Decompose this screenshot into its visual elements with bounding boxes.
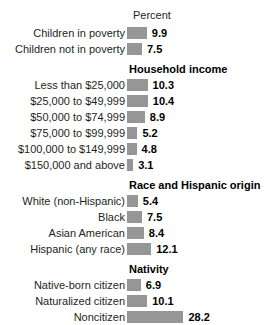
bar-category-label: Hispanic (any race): [0, 243, 127, 256]
bar-wrapper: 28.2: [127, 311, 268, 323]
bar-wrapper: 6.9: [127, 279, 268, 291]
bar-wrapper: 7.5: [127, 211, 268, 223]
bar-wrapper: 7.5: [127, 43, 268, 55]
bar-wrapper: 8.4: [127, 227, 268, 239]
bar-row: Children not in poverty7.5: [0, 41, 268, 57]
bar: [127, 243, 151, 255]
chart-section: Children in poverty9.9Children not in po…: [0, 25, 268, 57]
bar-wrapper: 10.1: [127, 295, 268, 307]
bar: [127, 311, 183, 323]
bar-category-label: $100,000 to $149,999: [0, 143, 127, 156]
bar-wrapper: 10.4: [127, 95, 268, 107]
bar-wrapper: 4.8: [127, 143, 268, 155]
bar-row: $150,000 and above3.1: [0, 157, 268, 173]
bar-row: Less than $25,00010.3: [0, 77, 268, 93]
bar-value-label: 10.3: [153, 79, 174, 91]
bar-value-label: 6.9: [146, 279, 161, 291]
bar-wrapper: 9.9: [127, 27, 268, 39]
bar-category-label: $150,000 and above: [0, 159, 127, 172]
bar-category-label: $25,000 to $49,999: [0, 95, 127, 108]
bar-row: White (non-Hispanic)5.4: [0, 193, 268, 209]
bar-row: Native-born citizen6.9: [0, 277, 268, 293]
bar-row: Hispanic (any race)12.1: [0, 241, 268, 257]
bar-category-label: Naturalized citizen: [0, 295, 127, 308]
bar-category-label: $50,000 to $74,999: [0, 111, 127, 124]
bar-value-label: 8.4: [149, 227, 164, 239]
bar-category-label: Children in poverty: [0, 27, 127, 40]
bar-value-label: 4.8: [142, 143, 157, 155]
section-heading: Nativity: [129, 262, 268, 277]
bar: [127, 211, 142, 223]
axis-title-percent: Percent: [133, 8, 171, 25]
section-heading: Race and Hispanic origin: [129, 178, 268, 193]
bar-value-label: 28.2: [188, 311, 209, 323]
bar-wrapper: 5.4: [127, 195, 268, 207]
bar-row: Noncitizen28.2: [0, 309, 268, 325]
bar-wrapper: 5.2: [127, 127, 268, 139]
chart-sections: Children in poverty9.9Children not in po…: [0, 25, 268, 325]
bar: [127, 27, 147, 39]
bar-value-label: 9.9: [152, 27, 167, 39]
bar-row: Naturalized citizen10.1: [0, 293, 268, 309]
bar-value-label: 8.9: [150, 111, 165, 123]
bar: [127, 127, 137, 139]
bar: [127, 143, 137, 155]
bar-row: Black7.5: [0, 209, 268, 225]
bar: [127, 295, 147, 307]
chart-section: Race and Hispanic originWhite (non-Hispa…: [0, 173, 268, 257]
bar-value-label: 5.4: [143, 195, 158, 207]
bar: [127, 279, 141, 291]
bar-wrapper: 3.1: [127, 159, 268, 171]
bar-category-label: Less than $25,000: [0, 79, 127, 92]
bar: [127, 159, 133, 171]
bar-category-label: Asian American: [0, 227, 127, 240]
bar-category-label: Children not in poverty: [0, 43, 127, 56]
chart-section: NativityNative-born citizen6.9Naturalize…: [0, 257, 268, 325]
bar: [127, 95, 148, 107]
bar-row: $50,000 to $74,9998.9: [0, 109, 268, 125]
bar-category-label: Black: [0, 211, 127, 224]
bar-wrapper: 12.1: [127, 243, 268, 255]
bar: [127, 195, 138, 207]
bar-category-label: Noncitizen: [0, 311, 127, 324]
axis-title-row: Percent: [0, 8, 268, 25]
bar-category-label: $75,000 to $99,999: [0, 127, 127, 140]
bar-value-label: 3.1: [138, 159, 153, 171]
bar-row: Asian American8.4: [0, 225, 268, 241]
bar-row: Children in poverty9.9: [0, 25, 268, 41]
bar: [127, 79, 148, 91]
bar-value-label: 7.5: [147, 211, 162, 223]
bar: [127, 227, 144, 239]
bar-category-label: Native-born citizen: [0, 279, 127, 292]
chart-section: Household incomeLess than $25,00010.3$25…: [0, 57, 268, 173]
bar-value-label: 10.4: [153, 95, 174, 107]
bar: [127, 43, 142, 55]
bar-row: $25,000 to $49,99910.4: [0, 93, 268, 109]
bar-category-label: White (non-Hispanic): [0, 195, 127, 208]
bar-value-label: 10.1: [152, 295, 173, 307]
bar-value-label: 7.5: [147, 43, 162, 55]
bar-row: $75,000 to $99,9995.2: [0, 125, 268, 141]
bar-wrapper: 10.3: [127, 79, 268, 91]
section-heading: Household income: [129, 62, 268, 77]
bar-wrapper: 8.9: [127, 111, 268, 123]
bar-value-label: 12.1: [156, 243, 177, 255]
bar-row: $100,000 to $149,9994.8: [0, 141, 268, 157]
bar-value-label: 5.2: [142, 127, 157, 139]
bar: [127, 111, 145, 123]
